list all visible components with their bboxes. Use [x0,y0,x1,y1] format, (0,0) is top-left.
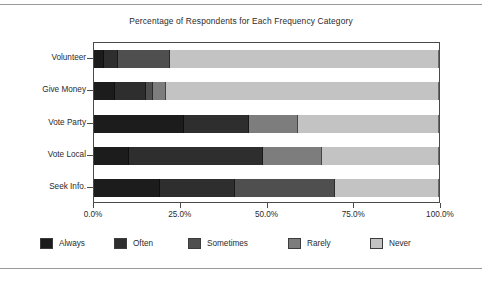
figure-page: Percentage of Respondents for Each Frequ… [0,0,482,283]
bar-segment [118,50,170,68]
chart-title: Percentage of Respondents for Each Frequ… [0,16,482,26]
bar-segment [94,50,104,68]
legend-label: Sometimes [207,239,248,248]
bar-segment [94,147,129,165]
bar-segment [263,147,322,165]
bar-row [94,115,439,133]
plot-area [93,42,440,203]
bar-segment [249,115,297,133]
x-axis-tick-label: 25.0% [168,210,191,219]
legend-swatch [370,238,383,249]
x-axis-tick-label: 100.0% [426,210,454,219]
x-axis-tick [267,203,268,208]
y-axis-label: Vote Party [48,118,86,127]
bar-segment [94,115,184,133]
x-axis-tick [180,203,181,208]
x-axis-tick-label: 50.0% [255,210,278,219]
y-axis-label: Seek Info. [49,182,86,191]
legend-item: Rarely [288,238,331,249]
page-rule-bottom [0,268,482,269]
chart-legend: AlwaysOftenSometimesRarelyNever [40,238,442,254]
legend-label: Rarely [307,239,331,248]
bar-segment [153,82,167,100]
y-axis-label: Vote Local [48,150,86,159]
bar-segment [160,179,236,197]
legend-item: Often [114,238,153,249]
legend-item: Sometimes [188,238,248,249]
bar-segment [129,147,264,165]
legend-swatch [40,238,53,249]
bar-segment [298,115,439,133]
y-axis-tick [87,123,93,124]
x-axis-tick [353,203,354,208]
y-axis-tick [87,90,93,91]
bar-row [94,82,439,100]
page-rule-top [0,4,482,5]
bar-segment [94,179,160,197]
y-axis-tick [87,58,93,59]
bar-row [94,50,439,68]
legend-swatch [288,238,301,249]
bar-segment [115,82,146,100]
bars-layer [94,43,439,202]
bar-segment [166,82,439,100]
bar-segment [235,179,335,197]
y-axis-tick [87,187,93,188]
legend-item: Always [40,238,85,249]
y-axis-label: Volunteer [51,53,86,62]
legend-label: Always [59,239,85,248]
bar-row [94,147,439,165]
bar-segment [94,82,115,100]
x-axis-tick-label: 75.0% [342,210,365,219]
bar-segment [184,115,250,133]
bar-segment [104,50,118,68]
legend-swatch [188,238,201,249]
x-axis-tick [93,203,94,208]
y-axis-label: Give Money [42,85,86,94]
bar-segment [322,147,439,165]
bar-segment [146,82,153,100]
x-axis-tick [440,203,441,208]
legend-item: Never [370,238,411,249]
y-axis-tick [87,155,93,156]
legend-label: Never [389,239,411,248]
bar-segment [170,50,439,68]
legend-swatch [114,238,127,249]
bar-row [94,179,439,197]
x-axis-tick-label: 0.0% [84,210,103,219]
legend-label: Often [133,239,153,248]
bar-segment [335,179,439,197]
